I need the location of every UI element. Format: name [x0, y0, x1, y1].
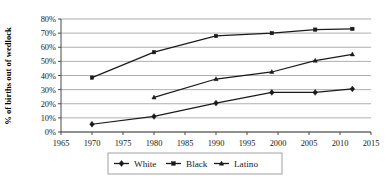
series-lines: [92, 29, 352, 124]
y-tick-label: 60%: [41, 43, 56, 52]
x-tick-label: 2005: [301, 139, 318, 148]
y-tick-label: 70%: [41, 29, 56, 38]
data-point-white: [350, 86, 355, 92]
data-point-black: [351, 27, 354, 30]
x-tick-label: 2010: [332, 139, 349, 148]
x-tick-label: 1980: [146, 139, 163, 148]
data-point-white: [214, 100, 219, 106]
chart-container: % of births out of wedlock 0%10%20%30%40…: [0, 0, 390, 180]
data-point-white: [152, 114, 157, 120]
y-axis-ticks: 0%10%20%30%40%50%60%70%80%: [41, 15, 61, 137]
data-point-latino: [350, 52, 354, 56]
series-line-white: [92, 89, 352, 124]
y-tick-label: 20%: [41, 100, 56, 109]
y-tick-label: 50%: [41, 57, 56, 66]
data-point-white: [313, 90, 318, 96]
y-tick-label: 0%: [45, 128, 56, 137]
data-point-black: [90, 76, 93, 79]
series-line-black: [92, 29, 352, 78]
x-tick-label: 1965: [53, 139, 70, 148]
series-markers: [90, 27, 355, 127]
x-tick-label: 1990: [208, 139, 225, 148]
x-tick-label: 2000: [270, 139, 287, 148]
x-tick-label: 1975: [115, 139, 132, 148]
y-tick-label: 30%: [41, 86, 56, 95]
x-tick-label: 1970: [84, 139, 101, 148]
y-tick-label: 40%: [41, 72, 56, 81]
legend-label: Latino: [234, 159, 258, 169]
x-axis-ticks: 1965197019751980198519901995200020052010…: [53, 132, 380, 148]
chart-legend: WhiteBlackLatino: [108, 153, 282, 174]
legend-square-icon: [172, 162, 176, 166]
legend-label: White: [134, 159, 156, 169]
data-point-white: [90, 121, 95, 127]
y-tick-label: 10%: [41, 114, 56, 123]
data-point-white: [270, 90, 275, 96]
legend-label: Black: [186, 159, 208, 169]
x-tick-label: 1995: [239, 139, 256, 148]
x-tick-label: 2015: [363, 139, 380, 148]
data-point-black: [314, 28, 317, 31]
x-tick-label: 1985: [177, 139, 194, 148]
data-point-black: [214, 34, 217, 37]
y-axis-title: % of births out of wedlock: [3, 27, 13, 125]
data-point-black: [270, 31, 273, 34]
y-tick-label: 80%: [41, 15, 56, 24]
line-chart: % of births out of wedlock 0%10%20%30%40…: [0, 0, 390, 180]
y-axis-title-text: % of births out of wedlock: [3, 27, 13, 125]
data-point-black: [152, 50, 155, 53]
